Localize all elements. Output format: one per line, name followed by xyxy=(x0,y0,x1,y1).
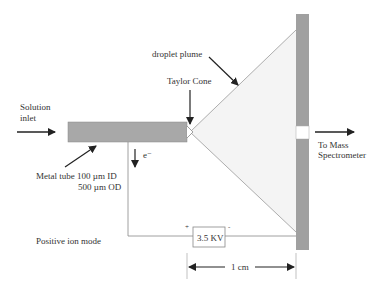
minus-sign: - xyxy=(228,223,231,231)
voltage-label: 3.5 KV xyxy=(197,233,224,243)
solution-inlet-label-line1: Solution xyxy=(20,102,51,112)
esi-diagram: 3.5 KV + - 1 cm Solution inlet droplet p… xyxy=(0,0,380,298)
to-mass-spec-label-line2: Spectrometer xyxy=(318,150,366,160)
to-mass-spec-label-line1: To Mass xyxy=(318,140,349,150)
ion-mode-label: Positive ion mode xyxy=(36,236,101,246)
metal-tube-pointer-arrow xyxy=(65,146,96,167)
counter-electrode-plate xyxy=(296,14,309,126)
electron-label: e⁻ xyxy=(143,150,152,160)
droplet-plume xyxy=(190,30,296,232)
plate-slit xyxy=(296,126,309,139)
metal-tube xyxy=(68,122,187,142)
plus-sign: + xyxy=(185,223,189,231)
taylor-cone xyxy=(187,126,193,138)
counter-electrode-plate-lower xyxy=(296,139,309,250)
metal-tube-label-line2: 500 µm OD xyxy=(78,182,122,192)
distance-label: 1 cm xyxy=(231,262,249,272)
metal-tube-label-line1: Metal tube 100 µm ID xyxy=(36,171,117,181)
droplet-plume-arrow xyxy=(209,57,238,85)
droplet-plume-label: droplet plume xyxy=(152,49,202,59)
taylor-cone-label: Taylor Cone xyxy=(167,76,212,86)
solution-inlet-label-line2: inlet xyxy=(20,113,36,123)
